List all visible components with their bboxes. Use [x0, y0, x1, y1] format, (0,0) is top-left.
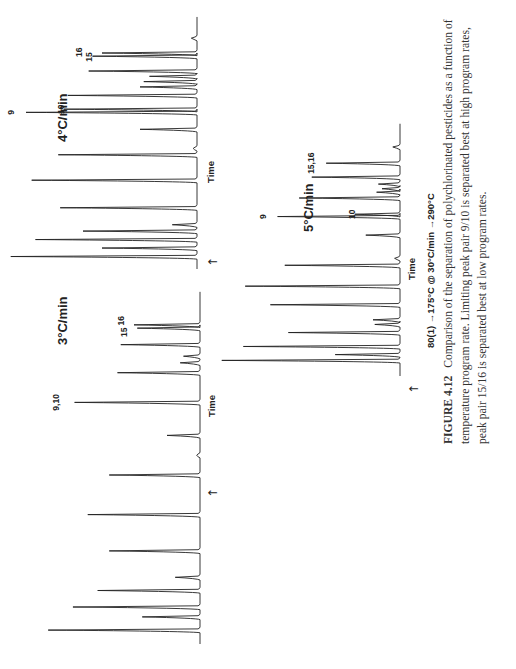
figure-number: FIGURE 4.12 — [442, 376, 455, 444]
chromatogram-4c-per-min: 9101615 — [6, 17, 197, 269]
injection-arrow-icon-5c: ↑ — [407, 384, 421, 394]
peak-label: 9 — [258, 214, 268, 219]
time-axis-label-5c: Time — [406, 258, 417, 280]
time-axis-label-3c: Time — [206, 395, 217, 417]
peak-label: 15,16 — [306, 152, 316, 174]
chromatogram-trace — [48, 292, 200, 644]
peak-label: 10 — [347, 209, 357, 219]
figure-caption-line-2: temperature program rate. Limiting peak … — [459, 27, 472, 444]
peak-label: 16 — [75, 47, 85, 57]
injection-arrow-icon-4c: ↑ — [206, 257, 220, 267]
peak-label: 15 — [119, 327, 129, 337]
caption-text-1: Comparison of the separation of polychlo… — [442, 19, 455, 367]
chromatogram-3c-per-min: 9,101516 — [48, 292, 200, 644]
temperature-program-label: 80(1) →175°C @ 30°C/min →290°C — [425, 193, 436, 348]
panel-title-3c: 3°C/min — [55, 296, 70, 345]
chromatogram-5c-per-min: 91015,16 — [222, 124, 400, 376]
chromatograms-canvas: 9,101516 9101615 91015,16 — [0, 0, 516, 669]
figure-caption-line-1: FIGURE 4.12Comparison of the separation … — [442, 19, 455, 444]
injection-arrow-icon-3c: ↑ — [206, 488, 220, 498]
figure-page: 9,101516 9101615 91015,16 4°C/min 3°C/mi… — [0, 0, 516, 669]
panel-title-5c: 5°C/min — [301, 183, 316, 232]
time-axis-label-4c: Time — [205, 161, 216, 183]
peak-label: 9 — [6, 110, 16, 115]
peak-label: 16 — [116, 316, 126, 326]
peak-label: 15 — [84, 52, 94, 62]
chromatogram-trace — [11, 17, 197, 269]
figure-caption-line-3: peak pair 15/16 is separated best at low… — [476, 192, 489, 444]
peak-label: 9,10 — [51, 394, 61, 411]
panel-title-4c: 4°C/min — [55, 93, 70, 142]
